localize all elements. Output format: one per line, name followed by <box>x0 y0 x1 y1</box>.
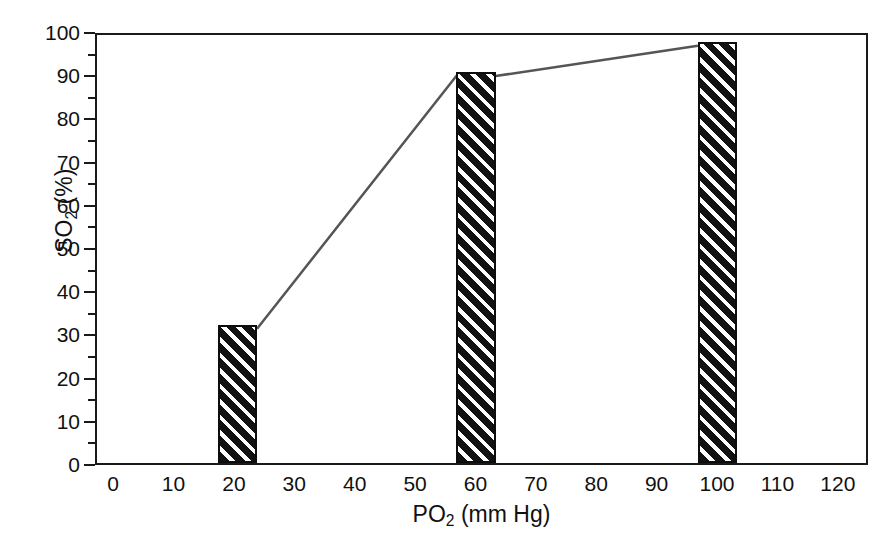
y-tick-minor <box>88 442 95 444</box>
y-tick-major <box>84 248 95 250</box>
y-tick-minor <box>88 226 95 228</box>
x-tick-label: 0 <box>107 473 119 494</box>
x-tick-label: 110 <box>761 473 794 494</box>
y-tick-major <box>84 421 95 423</box>
x-tick-label: 70 <box>524 473 547 494</box>
y-tick-label: 0 <box>68 454 80 475</box>
y-tick-minor <box>88 313 95 315</box>
y-tick-minor <box>88 183 95 185</box>
y-tick-minor <box>88 97 95 99</box>
y-tick-major <box>84 334 95 336</box>
x-tick-label: 40 <box>343 473 366 494</box>
bar <box>698 42 737 463</box>
y-tick-major <box>84 378 95 380</box>
x-axis-title-unit: (mm Hg) <box>455 501 551 527</box>
x-axis-title-subscript: 2 <box>446 512 455 529</box>
y-tick-major <box>84 464 95 466</box>
y-tick-major <box>84 118 95 120</box>
x-tick-label: 100 <box>699 473 734 494</box>
y-tick-label: 10 <box>57 411 80 432</box>
x-tick-label: 120 <box>820 473 855 494</box>
plot-area <box>97 35 866 463</box>
y-tick-major <box>84 75 95 77</box>
y-tick-label: 30 <box>57 324 80 345</box>
x-axis-title-base: PO <box>413 501 446 527</box>
y-axis-title: SO2 (%) <box>53 121 82 301</box>
y-tick-minor <box>88 140 95 142</box>
x-tick-label: 60 <box>464 473 487 494</box>
plot-frame <box>95 33 868 465</box>
y-tick-major <box>84 291 95 293</box>
x-tick-label: 50 <box>403 473 426 494</box>
y-tick-major <box>84 32 95 34</box>
oxygen-dissociation-bar-chart: 0102030405060708090100 SO2 (%) 010203040… <box>0 0 893 554</box>
y-tick-minor <box>88 270 95 272</box>
y-tick-major <box>84 205 95 207</box>
x-tick-label: 90 <box>645 473 668 494</box>
x-tick-label: 80 <box>585 473 608 494</box>
y-tick-minor <box>88 399 95 401</box>
y-axis-title-unit: (%) <box>51 169 77 211</box>
x-tick-label: 10 <box>162 473 185 494</box>
y-axis-title-base: SO <box>51 220 77 253</box>
bar <box>218 325 257 463</box>
y-tick-minor <box>88 356 95 358</box>
y-tick-label: 90 <box>57 65 80 86</box>
y-axis-title-subscript: 2 <box>63 211 80 220</box>
x-tick-label: 20 <box>222 473 245 494</box>
y-tick-minor <box>88 54 95 56</box>
x-tick-label: 30 <box>283 473 306 494</box>
bar <box>456 72 495 463</box>
y-tick-label: 100 <box>45 22 80 43</box>
y-tick-label: 20 <box>57 368 80 389</box>
x-axis-title: PO2 (mm Hg) <box>95 503 868 532</box>
x-axis: 0102030405060708090100110120 <box>95 465 868 505</box>
y-tick-major <box>84 162 95 164</box>
